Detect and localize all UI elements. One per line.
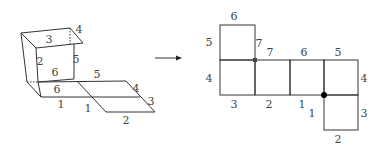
left-edge-label: 1	[85, 102, 92, 115]
flat-net-figure	[220, 25, 358, 130]
left-edge-label: 6	[52, 66, 59, 79]
folded-box-figure	[21, 28, 155, 112]
right-edge-label: 7	[267, 46, 274, 59]
right-edge-label: 1	[309, 107, 316, 120]
right-edge-label: 4	[361, 72, 368, 85]
right-edge-label: 2	[266, 98, 273, 111]
left-edge-labels: 342655641132	[37, 23, 155, 127]
left-edge-label: 5	[73, 53, 80, 66]
left-edge-label: 2	[123, 114, 130, 127]
left-edge-label: 4	[133, 82, 140, 95]
right-edge-label: 3	[361, 107, 368, 120]
right-edge-label: 3	[231, 98, 238, 111]
right-edge-label: 5	[206, 36, 213, 49]
right-edge-label: 4	[206, 72, 213, 85]
vertex-marker-dot	[321, 92, 327, 98]
left-edge-label: 3	[148, 95, 155, 108]
right-edge-label: 2	[335, 133, 342, 146]
right-edge-label: 6	[231, 10, 238, 23]
right-edge-label: 1	[299, 98, 306, 111]
left-edge-label: 1	[58, 98, 65, 111]
left-edge-label: 4	[76, 23, 83, 36]
right-edge-label: 5	[335, 46, 342, 59]
arrow-right-icon	[155, 56, 182, 61]
left-edge-label: 5	[94, 68, 101, 81]
left-edge-label: 3	[46, 33, 53, 46]
left-edge-label: 2	[37, 55, 44, 68]
left-edge-label: 6	[54, 83, 61, 96]
right-edge-label: 7	[256, 37, 263, 50]
right-edge-labels: 65776544321132	[206, 10, 368, 146]
right-edge-label: 6	[301, 46, 308, 59]
diagram-canvas: 342655641132 65776544321132	[0, 0, 388, 151]
vertex-marker-small	[253, 58, 257, 62]
